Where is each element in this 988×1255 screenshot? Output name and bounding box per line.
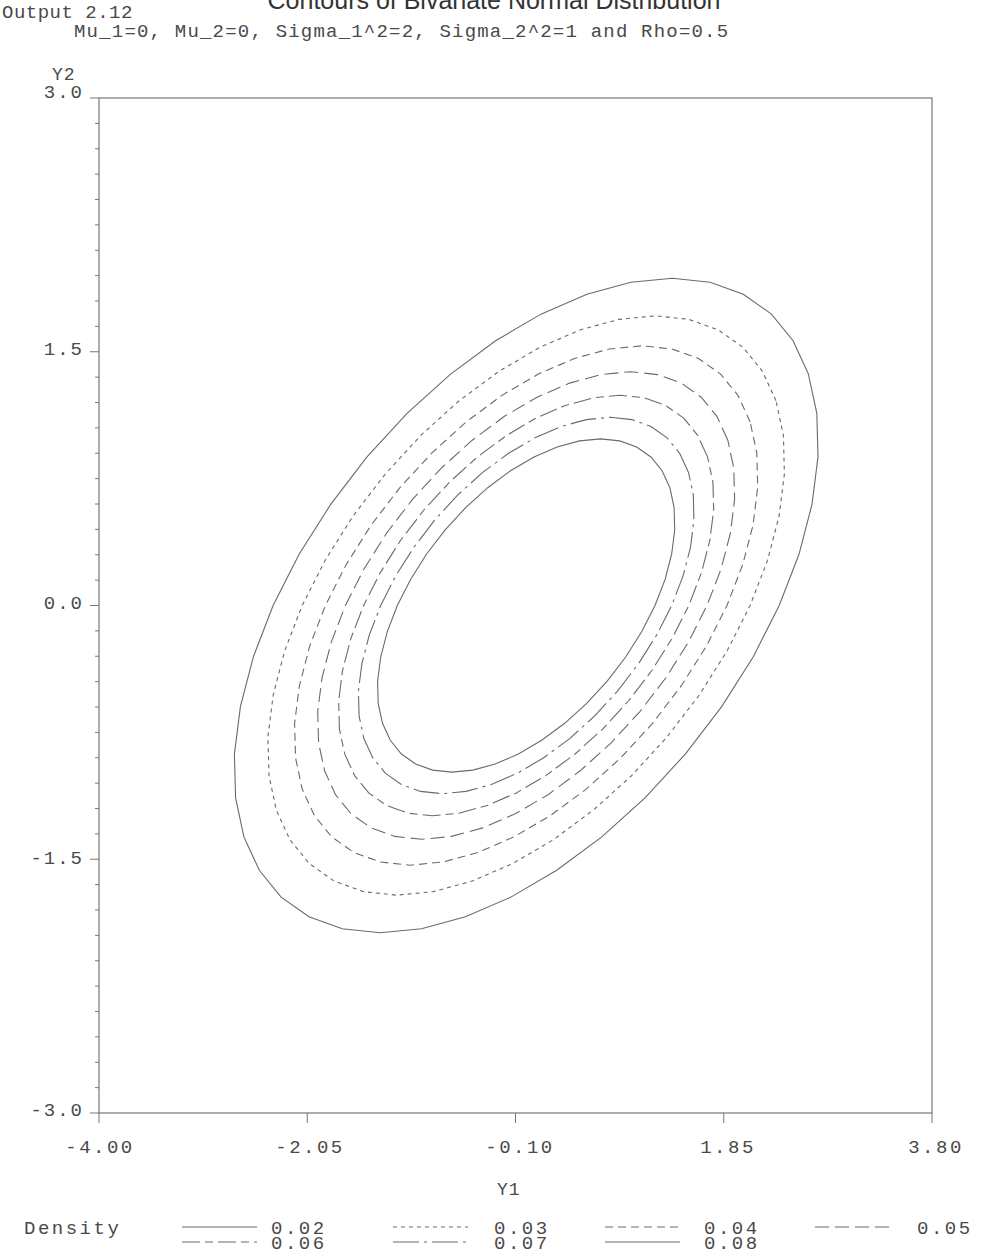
plot-frame <box>90 98 932 1123</box>
contour-lines <box>234 278 818 933</box>
legend-swatches <box>182 1227 890 1242</box>
contour-plot <box>0 0 988 1255</box>
